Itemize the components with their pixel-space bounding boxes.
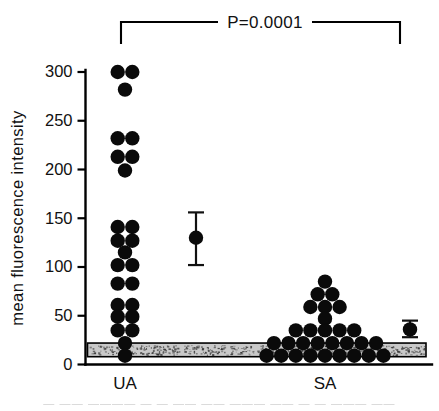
data-point bbox=[125, 220, 139, 234]
band-speckle bbox=[105, 352, 107, 353]
band-speckle bbox=[112, 349, 113, 351]
band-speckle bbox=[164, 350, 165, 351]
data-point bbox=[332, 300, 346, 314]
band-speckle bbox=[163, 346, 164, 348]
band-speckle bbox=[118, 349, 120, 350]
band-speckle bbox=[391, 347, 393, 348]
band-speckle bbox=[233, 351, 234, 352]
band-speckle bbox=[160, 350, 163, 351]
data-point bbox=[340, 336, 354, 350]
data-point bbox=[118, 349, 132, 363]
data-point bbox=[296, 336, 310, 350]
band-speckle bbox=[153, 351, 155, 352]
band-speckle bbox=[245, 351, 247, 352]
band-speckle bbox=[165, 349, 166, 350]
band-speckle bbox=[144, 347, 145, 349]
band-speckle bbox=[132, 353, 134, 354]
band-speckle bbox=[203, 348, 205, 349]
band-speckle bbox=[210, 349, 211, 350]
data-point bbox=[125, 65, 139, 79]
band-speckle bbox=[241, 352, 243, 354]
band-speckle bbox=[261, 348, 263, 350]
band-speckle bbox=[90, 347, 92, 349]
band-speckle bbox=[212, 354, 214, 356]
band-speckle bbox=[196, 348, 198, 350]
data-point bbox=[347, 323, 361, 337]
band-speckle bbox=[402, 347, 403, 349]
data-point bbox=[289, 349, 303, 363]
band-speckle bbox=[408, 352, 409, 354]
band-speckle bbox=[397, 351, 400, 352]
band-speckle bbox=[221, 351, 223, 352]
band-speckle bbox=[93, 348, 95, 350]
data-point bbox=[125, 310, 139, 324]
band-speckle bbox=[361, 351, 363, 353]
error-bar-ua bbox=[188, 212, 204, 265]
data-point bbox=[311, 336, 325, 350]
band-speckle bbox=[112, 352, 114, 353]
band-speckle bbox=[173, 355, 175, 356]
band-speckle bbox=[194, 351, 195, 353]
band-speckle bbox=[141, 345, 142, 347]
band-speckle bbox=[421, 346, 422, 347]
band-speckle bbox=[159, 351, 160, 353]
band-speckle bbox=[416, 347, 417, 349]
band-speckle bbox=[388, 346, 390, 347]
cropped-caption-ghost: — —— ———— — — —— —— ——— —— — — ——— —— bbox=[0, 397, 439, 411]
band-speckle bbox=[154, 347, 155, 349]
band-speckle bbox=[258, 352, 259, 353]
band-speckle bbox=[414, 350, 415, 351]
band-speckle bbox=[159, 346, 161, 347]
data-point bbox=[111, 65, 125, 79]
band-speckle bbox=[194, 347, 196, 349]
band-speckle bbox=[394, 353, 396, 355]
data-point bbox=[376, 349, 390, 363]
x-axis-label-ua: UA bbox=[113, 374, 137, 393]
band-speckle bbox=[231, 352, 233, 353]
band-speckle bbox=[114, 351, 116, 352]
data-point bbox=[118, 245, 132, 259]
band-speckle bbox=[108, 353, 109, 354]
band-speckle bbox=[393, 350, 395, 351]
band-speckle bbox=[149, 345, 150, 347]
band-speckle bbox=[417, 347, 418, 348]
series-ua-dots bbox=[111, 65, 140, 363]
band-speckle bbox=[249, 353, 250, 354]
band-speckle bbox=[216, 351, 217, 353]
band-speckle bbox=[395, 355, 397, 356]
band-speckle bbox=[214, 347, 216, 348]
band-speckle bbox=[396, 350, 397, 351]
band-speckle bbox=[189, 351, 191, 352]
band-speckle bbox=[217, 353, 219, 354]
band-speckle bbox=[205, 352, 207, 353]
band-speckle bbox=[240, 354, 242, 355]
band-speckle bbox=[133, 347, 134, 348]
band-speckle bbox=[177, 352, 179, 353]
band-speckle bbox=[226, 355, 229, 357]
band-speckle bbox=[116, 353, 117, 354]
band-speckle bbox=[249, 350, 250, 351]
band-speckle bbox=[238, 347, 239, 349]
band-speckle bbox=[173, 347, 175, 348]
band-speckle bbox=[98, 346, 99, 347]
band-speckle bbox=[247, 350, 248, 351]
data-point bbox=[259, 349, 273, 363]
band-speckle bbox=[142, 353, 144, 355]
band-speckle bbox=[132, 346, 133, 347]
y-tick-label: 200 bbox=[45, 160, 73, 178]
band-speckle bbox=[252, 351, 254, 353]
band-speckle bbox=[140, 349, 142, 350]
band-speckle bbox=[192, 349, 195, 350]
band-speckle bbox=[410, 354, 412, 356]
data-point bbox=[118, 82, 132, 96]
band-speckle bbox=[151, 353, 153, 354]
band-speckle bbox=[245, 348, 247, 349]
band-speckle bbox=[222, 345, 223, 346]
band-speckle bbox=[230, 354, 232, 355]
band-speckle bbox=[94, 352, 96, 354]
data-point bbox=[118, 163, 132, 177]
band-speckle bbox=[101, 346, 102, 347]
y-tick-label: 250 bbox=[45, 111, 73, 129]
band-speckle bbox=[179, 351, 181, 353]
band-speckle bbox=[262, 347, 264, 348]
